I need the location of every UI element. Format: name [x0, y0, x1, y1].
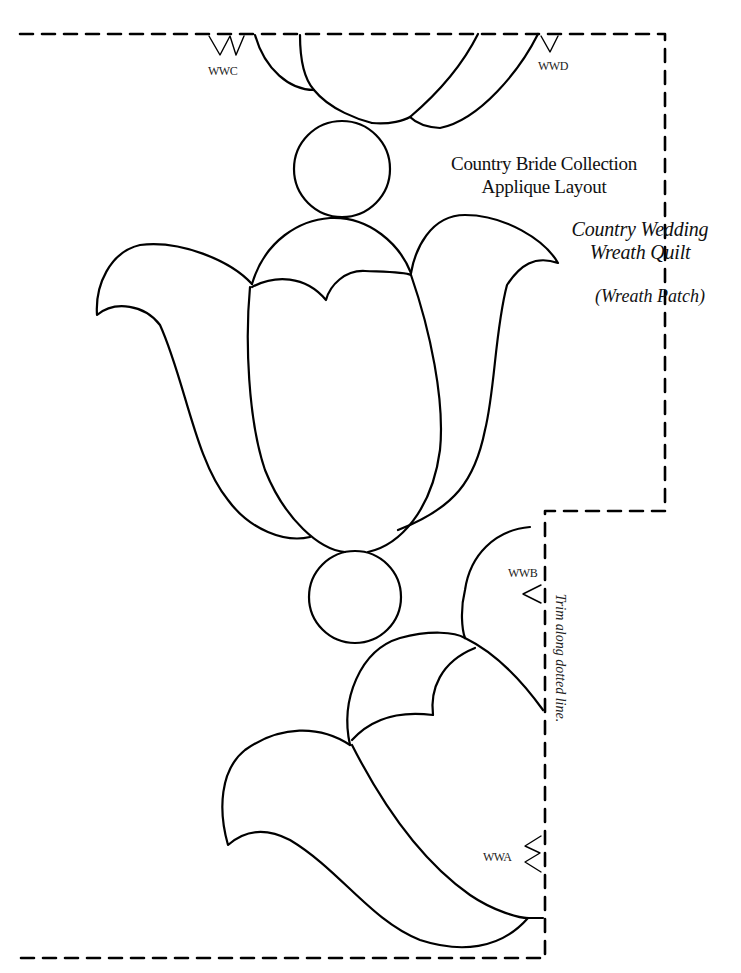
upper-circle-shape — [294, 121, 390, 217]
collection-heading: Country Bride Collection Applique Layout — [418, 152, 670, 198]
marker-wwd-label: WWD — [538, 60, 568, 72]
marker-wwb-label: WWB — [508, 567, 537, 579]
lower-tulip-shape — [222, 633, 543, 947]
marker-wwd-icon — [541, 36, 558, 52]
marker-wwa-icon — [525, 836, 541, 872]
pattern-name-line1: Country Wedding — [540, 218, 740, 241]
pattern-name: Country Wedding Wreath Quilt — [540, 218, 740, 264]
collection-title: Country Bride Collection — [418, 152, 670, 175]
main-tulip-shape — [97, 215, 558, 552]
top-tulip-shape — [255, 34, 538, 128]
patch-name: (Wreath Patch) — [560, 286, 740, 307]
trim-instruction: Trim along dotted line. — [552, 578, 568, 738]
marker-wwc-label: WWC — [208, 65, 237, 77]
pattern-name-line2: Wreath Quilt — [540, 241, 740, 264]
lower-circle-shape — [309, 551, 401, 643]
right-partial-tulip-shape — [462, 527, 530, 638]
marker-wwc-icon — [209, 36, 244, 55]
pattern-drawing — [0, 0, 741, 973]
marker-wwa-label: WWA — [483, 851, 512, 863]
marker-wwb-icon — [523, 585, 541, 603]
applique-layout-sheet: Country Bride Collection Applique Layout… — [0, 0, 741, 973]
layout-subtitle: Applique Layout — [418, 175, 670, 198]
